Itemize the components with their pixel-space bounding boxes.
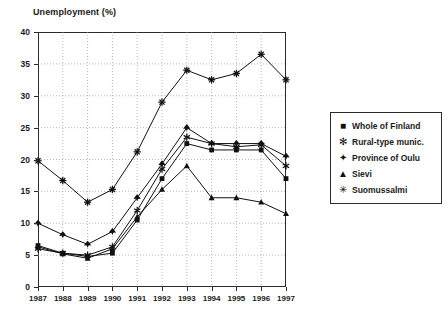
legend-label: Sievi [352, 169, 372, 179]
y-axis-tick-label: 20 [10, 155, 30, 165]
y-axis-tick-label: 0 [10, 282, 30, 292]
y-axis-tick-mark [34, 96, 38, 97]
y-axis-tick-mark [34, 160, 38, 161]
x-axis-tick-mark [137, 287, 138, 291]
y-axis-tick-label: 25 [10, 123, 30, 133]
y-axis-tick-label: 35 [10, 59, 30, 69]
x-axis-tick-mark [261, 287, 262, 291]
y-axis-tick-mark [34, 32, 38, 33]
y-axis-title: Unemployment (%) [33, 7, 116, 17]
y-axis-tick-mark [34, 64, 38, 65]
y-axis-tick-mark [34, 223, 38, 224]
legend-item-whole-of-finland[interactable]: ■ Whole of Finland [336, 118, 437, 134]
chart-canvas [38, 32, 286, 287]
legend-label: Rural-type munic. [352, 137, 424, 147]
y-axis-tick-label: 15 [10, 186, 30, 196]
legend-item-sievi[interactable]: ▲ Sievi [336, 166, 437, 182]
y-axis-tick-label: 40 [10, 27, 30, 37]
chart-legend: ■ Whole of Finland ✻ Rural-type munic. ✦… [330, 112, 442, 204]
y-axis-tick-mark [34, 191, 38, 192]
x-axis-tick-mark [162, 287, 163, 291]
filled-triangle-icon: ▲ [336, 169, 350, 179]
four-point-diamond-icon: ✦ [336, 153, 350, 163]
legend-item-rural-type-munic[interactable]: ✻ Rural-type munic. [336, 134, 437, 150]
legend-label: Whole of Finland [352, 121, 420, 131]
x-axis-tick-mark [187, 287, 188, 291]
x-axis-tick-label: 1997 [269, 294, 303, 303]
legend-label: Suomussalmi [352, 185, 407, 195]
y-axis-tick-label: 10 [10, 218, 30, 228]
legend-label: Province of Oulu [352, 153, 420, 163]
filled-square-icon: ■ [336, 121, 350, 131]
six-point-star-icon: ✻ [336, 137, 350, 147]
y-axis-tick-mark [34, 255, 38, 256]
x-axis-tick-mark [286, 287, 287, 291]
y-axis-tick-label: 30 [10, 91, 30, 101]
x-axis-tick-mark [63, 287, 64, 291]
chart-page: Unemployment (%) 0510152025303540 198719… [0, 0, 447, 321]
legend-item-province-of-oulu[interactable]: ✦ Province of Oulu [336, 150, 437, 166]
y-axis-tick-mark [34, 128, 38, 129]
plot-area [38, 32, 286, 287]
y-axis-tick-label: 5 [10, 250, 30, 260]
x-axis-tick-mark [236, 287, 237, 291]
legend-item-suomussalmi[interactable]: ✳ Suomussalmi [336, 182, 437, 198]
x-axis-tick-mark [38, 287, 39, 291]
x-axis-tick-mark [112, 287, 113, 291]
x-axis-tick-mark [212, 287, 213, 291]
x-axis-tick-mark [88, 287, 89, 291]
eight-point-asterisk-icon: ✳ [336, 185, 350, 195]
